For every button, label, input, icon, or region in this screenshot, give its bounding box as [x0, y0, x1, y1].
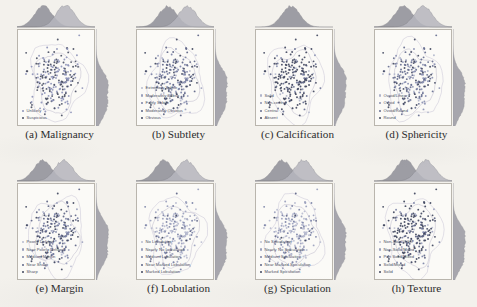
legend-label: Solid [265, 92, 274, 100]
legend-label: Nearly No Lobulation [146, 246, 185, 254]
legend-item: Moderately Obvious [141, 107, 183, 115]
legend-swatch-icon [379, 110, 381, 112]
legend-item: Fairly Subtle [141, 99, 183, 107]
scatter-axes: Poorly DefinedNear Poorly DefinedMedium … [17, 183, 95, 280]
legend-item: Solid [379, 268, 414, 276]
legend-item: Sharp [22, 268, 64, 276]
legend-swatch-icon [22, 256, 24, 258]
legend-swatch-icon [260, 102, 262, 104]
legend-item: Non-central [260, 99, 286, 107]
panel-caption: (b) Subtlety [119, 128, 238, 140]
legend-swatch-icon [260, 241, 262, 243]
legend-swatch-icon [141, 256, 143, 258]
legend-item: Nearly No Spiculation [260, 246, 311, 254]
legend-label: Round [384, 114, 396, 122]
legend-label: Poorly Defined [27, 238, 55, 246]
legend-item: Marked Lobulation [141, 268, 190, 276]
joint-plot-malignancy: UnlikelySuspicious [17, 4, 111, 126]
marginal-density-top [136, 4, 214, 28]
legend-label: Ovoid/Linear [384, 92, 408, 100]
marginal-density-top [136, 158, 214, 182]
legend-swatch-icon [260, 248, 262, 250]
marginal-density-right [334, 183, 349, 280]
marginal-density-right [453, 183, 468, 280]
panel-caption: (g) Spiculation [238, 282, 357, 294]
panel-sphericity: Ovoid/LinearOvoidOvoid/RoundRound (d) Sp… [357, 0, 476, 153]
panel-lobulation: No LobulationNearly No LobulationMedium … [119, 154, 238, 307]
legend: Ovoid/LinearOvoidOvoid/RoundRound [379, 92, 408, 122]
marginal-density-top [255, 4, 333, 28]
legend-swatch-icon [260, 271, 262, 273]
marginal-density-right [215, 29, 230, 126]
legend-item: Non-Solid/GGO [379, 238, 414, 246]
legend-swatch-icon [379, 271, 381, 273]
legend-item: Non-Solid/Mixed [379, 246, 414, 254]
legend-label: Moderately Subtle [146, 92, 180, 100]
legend-swatch-icon [141, 94, 143, 96]
legend: SolidNon-centralCentralAbsent [260, 92, 286, 122]
legend-label: Non-Solid/Mixed [384, 246, 415, 254]
legend: No LobulationNearly No LobulationMedium … [141, 238, 190, 276]
legend-item: Medium Spiculation [260, 253, 311, 261]
legend-swatch-icon [379, 256, 381, 258]
panel-margin: Poorly DefinedNear Poorly DefinedMedium … [0, 154, 119, 307]
legend-swatch-icon [141, 117, 143, 119]
marginal-density-top [17, 158, 95, 182]
scatter-axes: UnlikelySuspicious [17, 29, 95, 126]
marginal-density-right [334, 29, 349, 126]
legend-swatch-icon [141, 248, 143, 250]
joint-plot-lobulation: No LobulationNearly No LobulationMedium … [136, 158, 230, 280]
legend-swatch-icon [22, 110, 24, 112]
legend-label: Extremely Subtle [146, 84, 178, 92]
legend-label: Marked Lobulation [146, 268, 181, 276]
legend-item: Near Sharp [22, 261, 64, 269]
legend-label: Suspicious [27, 114, 47, 122]
marginal-density-right [453, 29, 468, 126]
legend-swatch-icon [22, 117, 24, 119]
legend-item: Solid [260, 92, 286, 100]
legend-label: Solid/Mixed [384, 261, 406, 269]
figure-row-bottom: Poorly DefinedNear Poorly DefinedMedium … [0, 154, 477, 307]
legend-swatch-icon [141, 241, 143, 243]
legend-item: Solid/Mixed [379, 261, 414, 269]
legend-label: Part Solid/Mixed [384, 253, 415, 261]
scatter-axes: Extremely SubtleModerately SubtleFairly … [136, 29, 214, 126]
panel-caption: (d) Sphericity [357, 128, 476, 140]
legend-label: Fairly Subtle [146, 99, 169, 107]
legend-label: Non-central [265, 99, 287, 107]
panel-caption: (c) Calcification [238, 128, 357, 140]
legend-swatch-icon [141, 102, 143, 104]
legend-label: Nearly No Spiculation [265, 246, 305, 254]
legend-swatch-icon [22, 241, 24, 243]
legend-item: Round [379, 114, 408, 122]
legend-swatch-icon [379, 248, 381, 250]
legend-item: Poorly Defined [22, 238, 64, 246]
legend-swatch-icon [379, 264, 381, 266]
legend: No SpiculationNearly No SpiculationMediu… [260, 238, 311, 276]
joint-plot-margin: Poorly DefinedNear Poorly DefinedMedium … [17, 158, 111, 280]
panel-subtlety: Extremely SubtleModerately SubtleFairly … [119, 0, 238, 153]
legend-item: Medium Lobulation [141, 253, 190, 261]
legend-item: No Lobulation [141, 238, 190, 246]
figure-row-top: UnlikelySuspicious (a) Malignancy Extrem… [0, 0, 477, 153]
legend-item: Ovoid/Round [379, 107, 408, 115]
legend-label: Marked Spiculation [265, 268, 301, 276]
legend: Extremely SubtleModerately SubtleFairly … [141, 84, 183, 122]
marginal-density-top [374, 158, 452, 182]
legend-swatch-icon [22, 264, 24, 266]
legend-item: Ovoid [379, 99, 408, 107]
legend-item: Central [260, 107, 286, 115]
panel-malignancy: UnlikelySuspicious (a) Malignancy [0, 0, 119, 153]
legend-swatch-icon [260, 117, 262, 119]
legend-label: Obvious [146, 114, 161, 122]
panel-caption: (f) Lobulation [119, 282, 238, 294]
joint-plot-texture: Non-Solid/GGONon-Solid/MixedPart Solid/M… [374, 158, 468, 280]
legend-label: Ovoid/Round [384, 107, 408, 115]
legend-label: Medium Margin [27, 253, 56, 261]
marginal-density-top [255, 158, 333, 182]
legend-item: Marked Spiculation [260, 268, 311, 276]
legend-label: Near Marked Lobulation [146, 261, 191, 269]
legend-item: No Spiculation [260, 238, 311, 246]
marginal-density-right [96, 29, 111, 126]
legend-item: Ovoid/Linear [379, 92, 408, 100]
